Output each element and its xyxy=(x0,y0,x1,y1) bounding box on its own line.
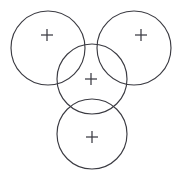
overlapping-circles-figure xyxy=(0,0,181,191)
plus-marker-bottom xyxy=(86,131,98,143)
plus-marker-top-right xyxy=(135,29,147,41)
diagram-canvas xyxy=(0,0,181,191)
plus-marker-top-left xyxy=(41,29,53,41)
circle-top-left xyxy=(11,11,85,85)
plus-marker-center xyxy=(85,73,97,85)
